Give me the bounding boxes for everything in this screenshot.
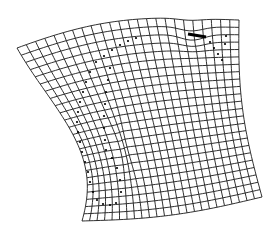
grid-col-line (239, 20, 262, 197)
landmark-dot (119, 179, 121, 181)
landmark-dot (89, 181, 91, 183)
landmark-dot (103, 115, 105, 117)
grid-row-line (73, 109, 243, 135)
landmark-dot (221, 59, 223, 61)
landmark-dot (115, 202, 117, 204)
landmark-dot (127, 40, 129, 42)
landmark-dot (105, 91, 107, 93)
landmark-dot (111, 157, 113, 159)
landmark-dot (89, 71, 91, 73)
landmark-dot (81, 151, 83, 153)
landmark-dot (111, 49, 113, 51)
landmark-dot (79, 101, 81, 103)
landmark-dot (96, 199, 98, 201)
landmark-dot (82, 91, 84, 93)
landmark-dot (103, 55, 105, 57)
grid-row-line (17, 18, 239, 48)
landmark-dot (116, 167, 118, 169)
landmark-dot (104, 103, 106, 105)
landmark-dot (92, 191, 94, 193)
landmark-dot (103, 127, 105, 129)
landmark-dot (107, 79, 109, 81)
landmark-dot (213, 47, 215, 49)
landmark-dot (77, 111, 79, 113)
landmark-dot (104, 139, 106, 141)
grid-col-line (165, 18, 202, 210)
landmark-dot (77, 131, 79, 133)
grid-row-line (84, 190, 260, 214)
landmark-dot (79, 141, 81, 143)
landmark-dot (102, 203, 104, 205)
landmark-dot (224, 43, 226, 45)
grid-col-line (156, 18, 195, 211)
landmark-dot (209, 41, 211, 43)
landmark-dot (87, 171, 89, 173)
landmark-dot (105, 149, 107, 151)
grid-col-line (137, 19, 179, 214)
landmark-dot (84, 161, 86, 163)
landmark-dot (85, 81, 87, 83)
landmark-dot (217, 53, 219, 55)
deformation-grid-figure (0, 0, 276, 238)
grid-col-line (26, 45, 93, 221)
landmark-dot (76, 121, 78, 123)
warped-mesh (0, 0, 276, 238)
landmark-dot (225, 35, 227, 37)
landmark-dot (135, 37, 137, 39)
grid-col-line (36, 41, 100, 220)
landmark-dot (119, 44, 121, 46)
grid-col-line (110, 22, 158, 216)
landmark-dot (95, 61, 97, 63)
grid-col-line (17, 48, 87, 221)
grid-row-line (82, 197, 262, 221)
landmark-dot (109, 67, 111, 69)
landmark-dot (109, 204, 111, 206)
landmark-dot (120, 191, 122, 193)
